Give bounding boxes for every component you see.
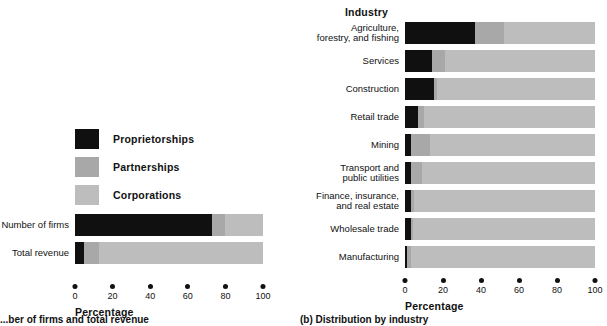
row-label: Total revenue	[0, 248, 75, 259]
bar-segment-proprietorships	[75, 242, 84, 264]
bar-segment-corporations	[430, 134, 595, 156]
axis-tick: 80	[220, 284, 230, 301]
right-axis-title: Percentage	[405, 300, 595, 312]
chart-row: Manufacturing	[305, 246, 601, 268]
row-label: Manufacturing	[305, 252, 405, 263]
left-axis-ticks: 020406080100	[75, 284, 263, 293]
axis-tick-label: 0	[72, 291, 77, 301]
chart-row: Services	[305, 50, 601, 72]
row-label: Wholesale trade	[305, 224, 405, 235]
axis-tick-dot	[223, 284, 228, 289]
right-panel-footnote: (b) Distribution by industry	[300, 314, 607, 326]
row-label: Transport and public utilities	[305, 163, 405, 184]
axis-tick: 80	[552, 278, 562, 295]
row-label: Agriculture, forestry, and fishing	[305, 23, 405, 44]
chart-row: Number of firms	[0, 214, 265, 236]
legend-item-corporations: Corporations	[75, 182, 194, 208]
stacked-bar	[405, 50, 595, 72]
bar-segment-proprietorships	[405, 78, 434, 100]
chart-row: Wholesale trade	[305, 218, 601, 240]
legend-label-proprietorships: Proprietorships	[113, 133, 194, 145]
row-label: Construction	[305, 84, 405, 95]
bar-segment-partnerships	[84, 242, 99, 264]
chart-row: Agriculture, forestry, and fishing	[305, 22, 601, 44]
chart-row: Mining	[305, 134, 601, 156]
axis-tick: 100	[255, 284, 270, 301]
axis-tick: 100	[587, 278, 602, 295]
stacked-bar	[405, 78, 595, 100]
right-axis-ticks: 020406080100	[405, 278, 595, 287]
row-label: Number of firms	[0, 220, 75, 231]
axis-tick-dot	[402, 278, 407, 283]
bar-segment-corporations	[413, 218, 595, 240]
left-panel-footnote: ...ber of firms and total revenue	[0, 314, 300, 326]
stacked-bar	[405, 106, 595, 128]
axis-tick-label: 20	[108, 291, 118, 301]
bar-segment-partnerships	[212, 214, 225, 236]
right-chart-x-axis: 020406080100 Percentage	[405, 278, 595, 312]
legend-swatch-partnerships	[75, 157, 99, 177]
axis-tick-dot	[148, 284, 153, 289]
row-label: Retail trade	[305, 112, 405, 123]
legend: Proprietorships Partnerships Corporation…	[75, 126, 194, 210]
stacked-bar	[75, 214, 263, 236]
axis-tick: 60	[183, 284, 193, 301]
axis-tick-dot	[72, 284, 77, 289]
bar-segment-corporations	[411, 246, 595, 268]
row-label: Mining	[305, 140, 405, 151]
axis-tick-dot	[440, 278, 445, 283]
legend-item-partnerships: Partnerships	[75, 154, 194, 180]
chart-row: Transport and public utilities	[305, 162, 601, 184]
stacked-bar	[405, 246, 595, 268]
bar-segment-partnerships	[475, 22, 504, 44]
axis-tick-label: 80	[552, 285, 562, 295]
chart-row: Total revenue	[0, 242, 265, 264]
axis-tick-dot	[185, 284, 190, 289]
axis-tick-dot	[554, 278, 559, 283]
stacked-bar	[405, 134, 595, 156]
row-label: Finance, insurance, and real estate	[305, 191, 405, 212]
axis-tick-label: 60	[514, 285, 524, 295]
axis-tick-label: 100	[587, 285, 602, 295]
bar-segment-proprietorships	[75, 214, 212, 236]
bar-segment-proprietorships	[405, 22, 475, 44]
legend-swatch-proprietorships	[75, 129, 99, 149]
bar-segment-corporations	[422, 162, 595, 184]
axis-tick-dot	[110, 284, 115, 289]
bar-segment-corporations	[445, 50, 595, 72]
bar-segment-corporations	[504, 22, 595, 44]
axis-tick-label: 40	[476, 285, 486, 295]
legend-label-corporations: Corporations	[113, 189, 181, 201]
bar-segment-proprietorships	[405, 106, 418, 128]
bar-segment-corporations	[99, 242, 263, 264]
bar-segment-partnerships	[432, 50, 445, 72]
bar-segment-corporations	[437, 78, 595, 100]
axis-tick-label: 40	[145, 291, 155, 301]
row-label: Services	[305, 56, 405, 67]
chart-row: Construction	[305, 78, 601, 100]
stacked-bar	[405, 218, 595, 240]
bar-segment-corporations	[414, 190, 595, 212]
bar-segment-proprietorships	[405, 50, 432, 72]
legend-label-partnerships: Partnerships	[113, 161, 180, 173]
axis-tick: 40	[476, 278, 486, 295]
axis-tick-dot	[261, 284, 266, 289]
axis-tick-dot	[593, 278, 598, 283]
stacked-bar	[405, 22, 595, 44]
bar-segment-corporations	[424, 106, 595, 128]
left-chart-rows: Number of firmsTotal revenue	[0, 214, 265, 270]
stacked-bar	[405, 190, 595, 212]
chart-row: Finance, insurance, and real estate	[305, 190, 601, 212]
axis-tick: 0	[402, 278, 407, 295]
right-chart-rows: Agriculture, forestry, and fishingServic…	[305, 22, 601, 274]
axis-tick: 20	[108, 284, 118, 301]
axis-tick-dot	[516, 278, 521, 283]
legend-swatch-corporations	[75, 185, 99, 205]
industry-column-header: Industry	[345, 6, 388, 18]
axis-tick-label: 100	[255, 291, 270, 301]
left-chart-x-axis: 020406080100 Percentage	[75, 284, 263, 318]
left-chart-panel: Proprietorships Partnerships Corporation…	[0, 0, 300, 324]
stacked-bar	[405, 162, 595, 184]
axis-tick: 60	[514, 278, 524, 295]
stacked-bar	[75, 242, 263, 264]
